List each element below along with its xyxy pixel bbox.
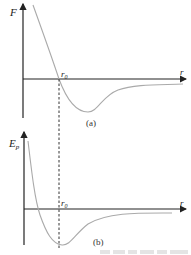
panel-b-potential: Ep r r0 (b) [8, 132, 186, 247]
e-axis-label: Ep [8, 137, 20, 151]
f-r-label: r [180, 67, 184, 77]
caption-b: (b) [93, 237, 104, 247]
watermark [100, 250, 188, 254]
f-r0-label: r0 [61, 69, 68, 80]
e-r-label: r [180, 198, 184, 208]
f-axis-label: F [9, 6, 17, 18]
force-curve [33, 5, 183, 112]
potential-curve [28, 141, 172, 245]
panel-a-force: F r r0 (a) [9, 4, 186, 128]
e-r0-label: r0 [61, 198, 68, 209]
caption-a: (a) [86, 118, 96, 128]
force-potential-diagram: F r r0 (a) Ep r r0 (b) [0, 0, 191, 255]
